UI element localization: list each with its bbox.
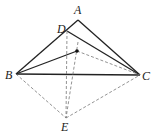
label-B: B — [5, 68, 13, 82]
segment-EC — [66, 75, 140, 118]
solid-lines — [16, 20, 140, 75]
segment-DC — [67, 31, 140, 75]
segment-IC — [77, 51, 140, 75]
label-A: A — [73, 3, 82, 17]
segment-BA — [16, 20, 78, 74]
segment-BI — [16, 51, 77, 74]
label-D: D — [56, 22, 66, 36]
segment-BC — [16, 74, 140, 75]
point-I-dot — [75, 49, 79, 53]
segment-AC — [78, 20, 140, 75]
label-E: E — [60, 120, 69, 134]
geometry-diagram: A D B C E — [0, 0, 158, 139]
segment-BE — [16, 74, 66, 118]
diagram-svg: A D B C E — [0, 0, 158, 139]
label-C: C — [142, 69, 151, 83]
